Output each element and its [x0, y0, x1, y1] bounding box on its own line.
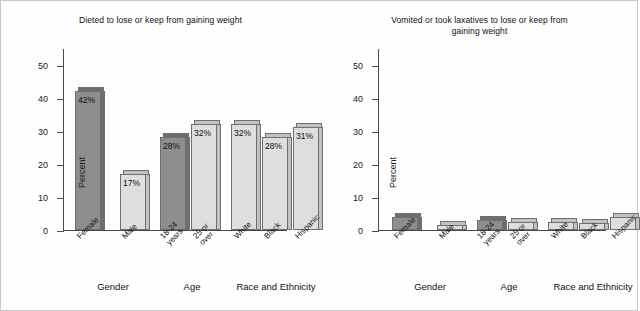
bar-face [191, 124, 217, 230]
bar-3d-side [257, 124, 261, 230]
y-tick-0: 0 [57, 231, 64, 232]
y-tick-label-40: 40 [38, 94, 48, 104]
y-tick-label-10: 10 [38, 193, 48, 203]
bar-3d-side [288, 137, 292, 230]
y-tick-50: 50 [372, 66, 379, 67]
y-tick-20: 20 [57, 165, 64, 166]
bar-3d-side [186, 137, 190, 230]
group-label-gender: Gender [414, 281, 446, 292]
y-tick-10: 10 [372, 198, 379, 199]
group-label-age: Age [184, 281, 201, 292]
bar-value-age-25-over: 32% [194, 128, 211, 138]
y-tick-30: 30 [57, 132, 64, 133]
y-tick-40: 40 [372, 99, 379, 100]
y-axis-line [63, 49, 64, 231]
chart-panel-dieted: Dieted to lose or keep from gaining weig… [1, 1, 320, 311]
bar-age-18-24-dieted[interactable]: 28% [160, 137, 186, 230]
bar-3d-side [503, 220, 507, 230]
y-tick-label-20: 20 [38, 160, 48, 170]
y-tick-label-0: 0 [358, 226, 363, 236]
bar-value-female: 42% [78, 95, 95, 105]
bar-value-white: 32% [234, 128, 251, 138]
bar-3d-side [605, 223, 609, 230]
y-tick-10: 10 [57, 198, 64, 199]
bar-value-hispanic: 31% [296, 131, 313, 141]
y-tick-0: 0 [372, 231, 379, 232]
y-axis-label-right: Percent [388, 157, 398, 188]
y-tick-label-50: 50 [353, 61, 363, 71]
bar-3d-side [217, 124, 221, 230]
chart-panel-vomited: Vomited or took laxatives to lose or kee… [320, 1, 639, 311]
bar-3d-side [463, 225, 467, 230]
bar-black-dieted[interactable]: 28% [262, 137, 288, 230]
group-label-gender: Gender [97, 281, 129, 292]
y-tick-50: 50 [57, 66, 64, 67]
y-tick-label-30: 30 [353, 127, 363, 137]
y-tick-label-30: 30 [38, 127, 48, 137]
panel-title-right: Vomited or took laxatives to lose or kee… [330, 15, 629, 37]
y-tick-40: 40 [57, 99, 64, 100]
y-tick-20: 20 [372, 165, 379, 166]
y-axis-line [378, 49, 379, 231]
bar-white-dieted[interactable]: 32% [231, 124, 257, 230]
bar-3d-side [101, 91, 105, 230]
bar-3d-side [534, 222, 538, 230]
y-tick-label-50: 50 [38, 61, 48, 71]
bar-value-age-18-24: 28% [163, 141, 180, 151]
plot-area-right: 50 40 30 20 10 0 [378, 49, 606, 231]
bar-value-black: 28% [265, 141, 282, 151]
y-tick-label-20: 20 [353, 160, 363, 170]
y-tick-label-0: 0 [43, 226, 48, 236]
group-label-age: Age [501, 281, 518, 292]
plot-area-left: 50 40 30 20 10 0 42% [63, 49, 287, 231]
bar-age-25-over-dieted[interactable]: 32% [191, 124, 217, 230]
bar-3d-side [146, 174, 150, 230]
bar-3d-side [418, 217, 422, 230]
y-axis-label-left: Percent [77, 157, 87, 188]
y-tick-label-40: 40 [353, 94, 363, 104]
bar-face [231, 124, 257, 230]
group-label-race-ethnicity: Race and Ethnicity [553, 281, 632, 292]
bar-3d-side [574, 222, 578, 230]
group-label-race-ethnicity: Race and Ethnicity [236, 281, 315, 292]
panel-title-left: Dieted to lose or keep from gaining weig… [11, 15, 310, 26]
y-tick-label-10: 10 [353, 193, 363, 203]
bar-value-male: 17% [123, 178, 140, 188]
y-tick-30: 30 [372, 132, 379, 133]
